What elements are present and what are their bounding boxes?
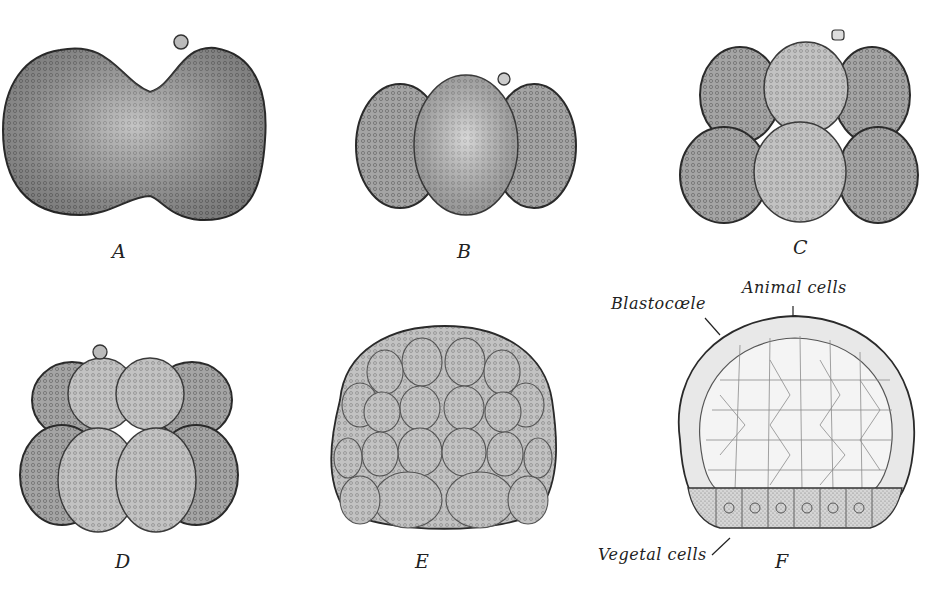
panel-e-morula <box>331 326 556 529</box>
panel-b-four-cell <box>356 73 576 215</box>
panel-label-a: A <box>112 240 126 262</box>
embryology-figure: A B C D E F Blastocœle Animal cells Vege… <box>0 0 928 590</box>
panel-label-c: C <box>793 236 808 258</box>
panel-d-sixteen-cell <box>20 345 238 532</box>
panel-c-eight-cell <box>680 30 918 223</box>
annotation-blastocoele: Blastocœle <box>611 294 706 313</box>
panel-a-two-cell <box>3 35 266 220</box>
panel-f-blastula <box>679 306 915 555</box>
annotation-animal-cells: Animal cells <box>742 278 847 297</box>
panel-label-f: F <box>775 550 788 572</box>
polar-body-a <box>174 35 188 49</box>
panel-label-d: D <box>115 550 130 572</box>
panel-label-e: E <box>415 550 429 572</box>
panel-label-b: B <box>457 240 471 262</box>
annotation-vegetal-cells: Vegetal cells <box>598 545 707 564</box>
